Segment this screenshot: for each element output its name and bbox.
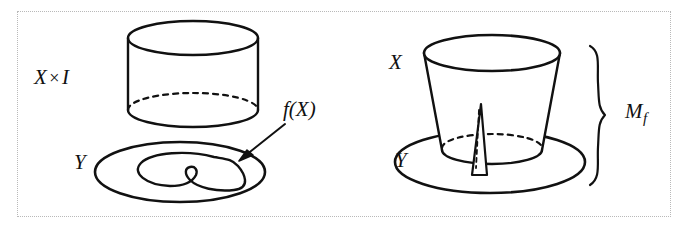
brace-path — [590, 46, 605, 185]
truncated-cone-x — [424, 35, 560, 164]
left-panel-group — [95, 21, 285, 202]
label-y-right: Y — [395, 150, 407, 171]
pointer-arrow-to-f-of-x — [239, 124, 285, 161]
label-x-times-i-x: X — [34, 65, 47, 89]
cylinder-bottom-back-arc-hidden — [128, 93, 258, 110]
right-panel-group — [395, 35, 605, 193]
mapping-cylinder-figure: X×I Y f(X) X Y Mf — [0, 0, 688, 230]
label-mapping-cylinder: Mf — [625, 101, 647, 126]
label-x-times-i-i: I — [62, 65, 70, 89]
cylinder-bottom-front-arc — [128, 110, 258, 127]
label-mapping-cylinder-subscript: f — [643, 110, 648, 126]
label-f-of-x: f(X) — [283, 99, 316, 120]
times-symbol: × — [47, 68, 62, 88]
brace-mapping-cylinder — [590, 46, 605, 185]
cylinder-top-ellipse — [128, 21, 258, 55]
label-y-left: Y — [74, 152, 86, 173]
label-x-times-i: X×I — [34, 67, 70, 88]
cone-top-ellipse — [424, 35, 560, 71]
cylinder-x-times-i — [128, 21, 258, 127]
label-x-right: X — [389, 52, 402, 73]
figure-drawing — [0, 0, 688, 230]
label-mapping-cylinder-m: M — [625, 99, 643, 123]
